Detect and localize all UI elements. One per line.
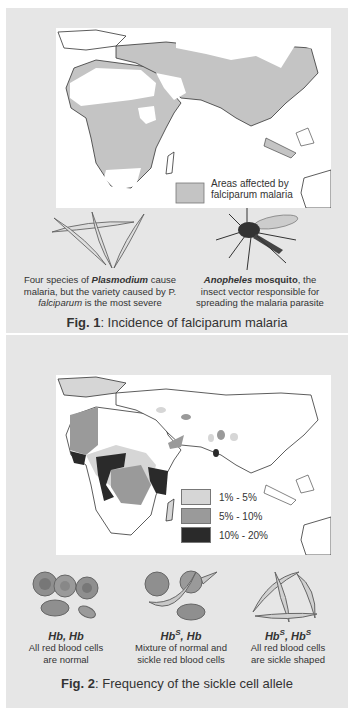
legend-label: 10% - 20% <box>219 530 268 541</box>
caption-text: mosquito <box>252 274 297 285</box>
legend-label: 1% - 5% <box>219 492 257 503</box>
normal-cells-illustration <box>31 570 101 622</box>
normal-red-blood-cells-icon <box>31 570 101 622</box>
figure-2-title: Fig. 2: Frequency of the sickle cell all… <box>6 676 348 691</box>
mixed-red-blood-cells-icon <box>141 568 221 624</box>
plasmodium-illustration <box>44 210 154 272</box>
genotype-label-normal: Hb, Hb <box>6 628 126 642</box>
caption-text: insect vector responsible for <box>190 286 330 298</box>
allele-1: Hb <box>265 630 280 642</box>
figure-title-text: : Frequency of the sickle cell allele <box>95 676 293 691</box>
caption-text: , the <box>298 274 317 285</box>
plasmodium-icon <box>44 210 154 272</box>
genotype-label-sickle: HbS, HbS <box>228 628 348 642</box>
figure-2-panel: 1% - 5% 5% - 10% 10% - 20% <box>6 335 348 708</box>
figure-1-title: Fig. 1: Incidence of falciparum malaria <box>6 315 348 330</box>
desc-line: are sickle shaped <box>228 654 348 666</box>
allele-2: Hb <box>187 630 202 642</box>
desc-line: sickle red blood cells <box>121 654 241 666</box>
allele-1: Hb <box>48 630 63 642</box>
legend-item-low: 1% - 5% <box>181 489 257 505</box>
desc-line: All red blood cells <box>228 642 348 654</box>
genotype-desc-sickle: All red blood cells are sickle shaped <box>228 642 348 665</box>
sickle-cells-illustration <box>249 568 321 624</box>
legend-swatch <box>181 508 211 524</box>
mosquito-illustration <box>211 208 311 274</box>
genotype-desc-normal: All red blood cells are normal <box>6 642 126 665</box>
allele-2: Hb <box>291 630 306 642</box>
caption-species: falciparum <box>38 297 82 308</box>
mixed-cells-illustration <box>141 568 221 624</box>
map-legend: Areas affected by falciparum malaria <box>211 178 293 200</box>
legend-label: 5% - 10% <box>219 511 262 522</box>
legend-label-line2: falciparum malaria <box>211 189 293 200</box>
allele-2: Hb <box>69 630 84 642</box>
allele-1-sup: S <box>280 628 285 637</box>
plasmodium-caption: Four species of Plasmodium cause malaria… <box>20 274 180 309</box>
mosquito-icon <box>211 208 311 274</box>
caption-text: Four species of <box>24 274 92 285</box>
desc-line: are normal <box>6 654 126 666</box>
legend-label-line1: Areas affected by <box>211 178 293 189</box>
desc-line: Mixture of normal and <box>121 642 241 654</box>
sickle-red-blood-cells-icon <box>249 568 321 624</box>
caption-text: is the most severe <box>82 297 162 308</box>
caption-genus: Plasmodium <box>92 274 149 285</box>
mosquito-caption: Anopheles mosquito, the insect vector re… <box>190 274 330 309</box>
legend-item-high: 10% - 20% <box>181 527 268 543</box>
allele-1-sup: S <box>175 628 180 637</box>
legend-swatch <box>181 489 211 505</box>
genotype-label-mixed: HbS, Hb <box>121 628 241 642</box>
figure-number: Fig. 1 <box>66 315 100 330</box>
caption-text: cause <box>148 274 176 285</box>
allele-2-sup: S <box>306 628 311 637</box>
caption-text: spreading the malaria parasite <box>190 297 330 309</box>
legend-swatch <box>181 527 211 543</box>
figure-number: Fig. 2 <box>61 676 95 691</box>
caption-genus: Anopheles <box>204 274 253 285</box>
sickle-cell-frequency-map: 1% - 5% 5% - 10% 10% - 20% <box>56 375 331 555</box>
genotype-desc-mixed: Mixture of normal and sickle red blood c… <box>121 642 241 665</box>
malaria-incidence-map: Areas affected by falciparum malaria <box>56 28 331 208</box>
desc-line: All red blood cells <box>6 642 126 654</box>
figure-title-text: : Incidence of falciparum malaria <box>100 315 287 330</box>
legend-item-medium: 5% - 10% <box>181 508 262 524</box>
allele-1: Hb <box>161 630 176 642</box>
figure-1-panel: Areas affected by falciparum malaria <box>6 8 348 333</box>
caption-text: malaria, but the variety caused by P. <box>20 286 180 298</box>
